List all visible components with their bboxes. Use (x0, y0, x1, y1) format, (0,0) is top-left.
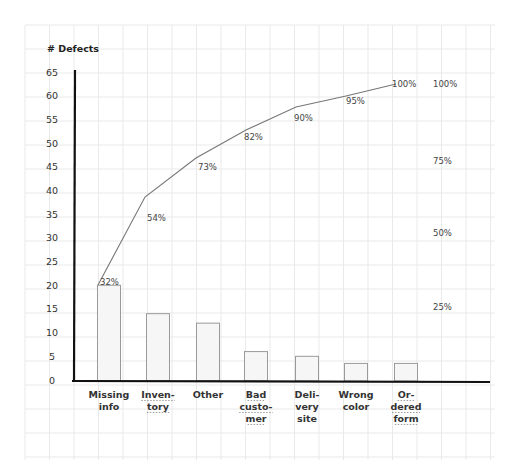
y-tick-label: 35 (46, 209, 58, 220)
x-axis-line (72, 381, 490, 382)
cumulative-percent-label: 90% (294, 113, 313, 123)
cumulative-percent-label: 100% (392, 79, 416, 89)
y-tick-label: 40 (46, 185, 58, 196)
y-tick-label: 60 (46, 90, 58, 101)
secondary-axis-label: 50% (433, 228, 452, 238)
x-category-label: mer (245, 413, 266, 424)
y-tick-label: 50 (46, 138, 58, 149)
x-category-label: Missing (89, 389, 130, 400)
y-tick-label: 0 (49, 375, 55, 386)
y-tick-label: 45 (46, 161, 58, 172)
cumulative-percent-label: 73% (198, 162, 217, 172)
cumulative-percent-label: 54% (147, 213, 166, 223)
y-tick-label: 10 (46, 327, 58, 338)
bar-other (197, 323, 220, 381)
bar-inventory (147, 314, 170, 381)
x-category-label: dered (390, 401, 421, 412)
bar-bad-customer (245, 352, 268, 381)
cumulative-percent-label: 82% (244, 132, 263, 142)
y-tick-label: 5 (49, 351, 55, 362)
x-category-label: Bad (246, 389, 266, 400)
y-tick-label: 25 (46, 256, 58, 267)
cumulative-line (98, 84, 396, 285)
y-tick-label: 65 (46, 67, 58, 78)
x-category-label: tory (147, 401, 170, 412)
x-category-label: site (297, 413, 317, 424)
x-category-label: very (295, 401, 319, 412)
bar-missing-info (98, 285, 121, 381)
y-tick-label: 15 (46, 303, 58, 314)
x-category-label: Wrong (338, 389, 373, 400)
y-axis-ticks: 05101520253035404550556065 (46, 67, 58, 386)
x-category-label: Other (193, 389, 224, 400)
bars (98, 285, 418, 381)
secondary-axis-labels: 100%75%50%25% (433, 79, 457, 312)
x-category-label: form (393, 413, 418, 424)
secondary-axis-label: 25% (433, 302, 452, 312)
y-axis-title: # Defects (47, 43, 99, 54)
bar-ordered-form (395, 363, 418, 381)
secondary-axis-label: 100% (433, 79, 457, 89)
x-axis-categories: MissinginfoInven-toryOtherBadcusto-merDe… (89, 389, 422, 425)
x-category-label: Or- (398, 389, 415, 400)
x-category-label: info (99, 401, 120, 412)
y-axis-line (74, 70, 75, 381)
x-category-label: custo- (239, 401, 272, 412)
x-category-label: Inven- (141, 389, 175, 400)
y-tick-label: 55 (46, 114, 58, 125)
y-tick-label: 20 (46, 280, 58, 291)
bar-wrong-color (345, 363, 368, 381)
cumulative-percent-label: 32% (100, 277, 119, 287)
x-category-label: color (343, 401, 370, 412)
secondary-axis-label: 75% (433, 156, 452, 166)
cumulative-percent-label: 95% (346, 96, 365, 106)
pareto-chart: # Defects 05101520253035404550556065 32%… (0, 0, 512, 471)
y-tick-label: 30 (46, 232, 58, 243)
x-category-label: Deli- (295, 389, 320, 400)
bar-delivery-site (296, 356, 319, 381)
